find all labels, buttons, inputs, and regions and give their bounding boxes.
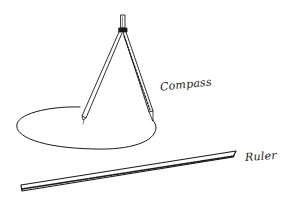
compass <box>82 15 153 124</box>
compass-right-leg <box>123 32 153 112</box>
compass-handle <box>121 15 125 28</box>
ruler <box>21 151 236 191</box>
sketch-canvas <box>0 0 293 208</box>
traced-circle <box>17 107 156 149</box>
ruler-label: Ruler <box>245 149 277 164</box>
compass-left-leg <box>82 32 122 118</box>
ruler-ticks <box>22 156 234 189</box>
compass-pivot <box>119 28 127 32</box>
ruler-outline <box>21 151 236 191</box>
